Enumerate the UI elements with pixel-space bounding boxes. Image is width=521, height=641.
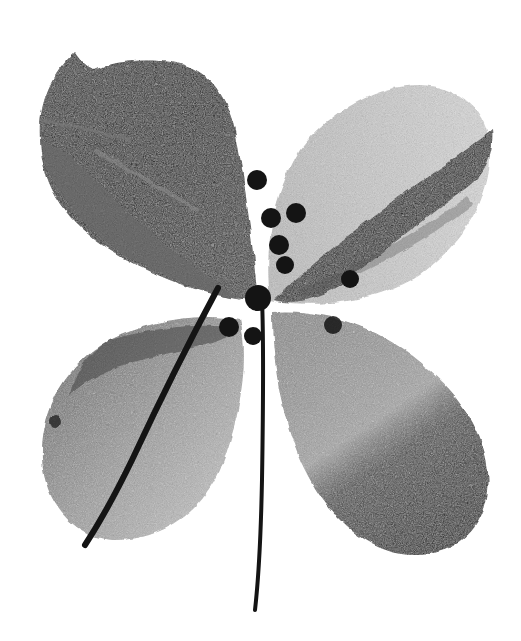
seed-dot (341, 270, 359, 288)
petal-lower-right (272, 311, 488, 555)
seed-dot (276, 256, 294, 274)
seed-dot (286, 203, 306, 223)
vertical-stem (255, 298, 263, 610)
seed-dot (324, 316, 342, 334)
flower-center (245, 285, 271, 311)
seed-dot (244, 327, 262, 345)
petal-upper-right (268, 85, 492, 304)
flower-illustration (0, 0, 521, 641)
petal-upper-left (40, 52, 258, 300)
seed-dot (261, 208, 281, 228)
seed-dot (219, 317, 239, 337)
seed-dot (269, 235, 289, 255)
flower-print-image: Four-petaled flower print (0, 0, 521, 641)
petal-lower-left (42, 317, 244, 540)
seed-dot (247, 170, 267, 190)
